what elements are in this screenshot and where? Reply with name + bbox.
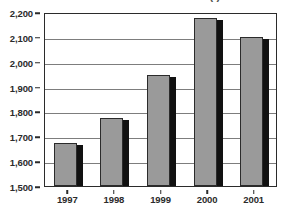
y-tick-mark <box>35 112 40 114</box>
bar-face <box>100 118 123 186</box>
y-tick-label: 1,700 <box>10 132 33 143</box>
y-tick-mark <box>35 37 40 39</box>
bar-face <box>194 18 217 186</box>
x-tick-mark <box>113 190 115 194</box>
bar-2001 <box>240 37 269 186</box>
y-tick-mark <box>35 87 40 89</box>
x-tick-mark <box>253 190 255 194</box>
bar-face <box>54 143 77 186</box>
x-tick-mark <box>206 190 208 194</box>
y-tick-label: 1,800 <box>10 107 33 118</box>
y-tick-label: 1,900 <box>10 82 33 93</box>
y-tick-label: 1,600 <box>10 157 33 168</box>
y-tick-mark <box>35 62 40 64</box>
y-tick-mark <box>35 12 40 14</box>
bar-1999 <box>147 75 176 186</box>
x-tick-mark <box>160 190 162 194</box>
x-tick-mark <box>67 190 69 194</box>
x-axis: 19971998199920002001 <box>44 190 277 210</box>
bar-shadow <box>217 20 223 186</box>
bar-face <box>240 37 263 186</box>
y-tick-label: 1,500 <box>10 182 33 193</box>
y-tick-mark <box>35 186 40 188</box>
y-axis: 2,2002,1002,0001,9001,8001,7001,6001,500 <box>0 13 40 187</box>
x-tick-label: 1998 <box>104 194 125 205</box>
bar-shadow <box>263 39 269 186</box>
bar-1998 <box>100 118 129 186</box>
bar-1997 <box>54 143 83 186</box>
y-tick-mark <box>35 161 40 163</box>
plot-area <box>44 13 277 187</box>
y-tick-mark <box>35 137 40 139</box>
y-tick-label: 2,100 <box>10 32 33 43</box>
bar-2000 <box>194 18 223 186</box>
bar-chart-figure: ( ) 2,2002,1002,0001,9001,8001,7001,6001… <box>0 0 286 214</box>
x-tick-label: 2001 <box>243 194 264 205</box>
x-tick-label: 2000 <box>197 194 218 205</box>
x-tick-label: 1999 <box>150 194 171 205</box>
bar-face <box>147 75 170 186</box>
bar-shadow <box>77 145 83 186</box>
y-tick-label: 2,200 <box>10 8 33 19</box>
bar-shadow <box>170 77 176 186</box>
x-tick-label: 1997 <box>57 194 78 205</box>
bar-shadow <box>123 120 129 186</box>
y-tick-label: 2,000 <box>10 57 33 68</box>
chart-title: ( ) <box>147 0 283 3</box>
